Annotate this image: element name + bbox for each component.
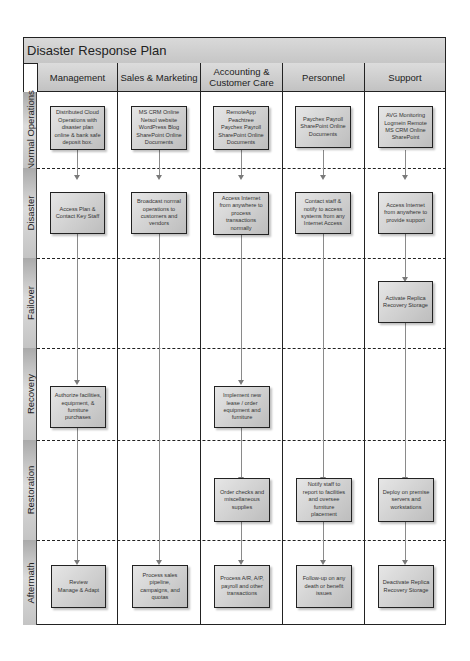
row-label-text: Aftermath (24, 562, 35, 603)
arrow-down-icon (238, 175, 244, 180)
step-box-disaster-sales: Broadcast normal operations to customers… (131, 192, 187, 234)
row-label-text: Disaster (24, 196, 35, 231)
row-label-aftermath: Aftermath (23, 540, 37, 625)
connector-line (241, 235, 242, 382)
row-label-failover: Failover (23, 258, 37, 348)
diagram-title: Disaster Response Plan (27, 43, 166, 58)
arrow-down-icon (156, 175, 162, 180)
column-divider (200, 92, 201, 625)
arrow-down-icon (402, 175, 408, 180)
step-box-aftermath-personnel: Follow-up on any death or benefit issues (296, 565, 352, 608)
connector-line (77, 150, 78, 178)
step-box-normal-support: AVG Monitoring Logmein Remote MS CRM Onl… (378, 106, 433, 148)
column-header-sales-marketing: Sales & Marketing (117, 63, 201, 92)
column-header-personnel: Personnel (282, 63, 365, 92)
step-box-normal-sales: MS CRM Online Netsol website WordPress B… (131, 106, 187, 150)
step-box-recovery-management: Authorize facilities, equipment, & furni… (50, 386, 106, 428)
column-header-accounting: Accounting & Customer Care (200, 63, 283, 92)
connector-line (159, 150, 160, 178)
step-box-disaster-support: Access Internet from anywhere to provide… (378, 192, 433, 234)
row-label-text: Normal Operations (24, 90, 35, 170)
connector-line (323, 522, 324, 560)
step-box-restoration-support: Deploy on premise servers and workstatio… (378, 478, 434, 522)
connector-line (405, 522, 406, 560)
column-divider (282, 92, 283, 625)
connector-line (159, 234, 160, 561)
step-box-normal-accounting: RemoteApp Peachtree Paychex Payroll Shar… (213, 106, 269, 150)
connector-line (405, 323, 406, 479)
connector-line (323, 234, 324, 479)
step-box-disaster-personnel: Contact staff & notify to access systems… (295, 192, 351, 234)
title-bar: Disaster Response Plan (23, 37, 446, 64)
row-label-recovery: Recovery (23, 348, 37, 440)
arrow-down-icon (74, 380, 80, 385)
step-box-aftermath-support: Deactivate Replica Recovery Storage (378, 565, 434, 608)
row-label-normal-operations: Normal Operations (23, 92, 37, 168)
column-header-support: Support (364, 63, 446, 92)
connector-line (323, 150, 324, 178)
step-box-aftermath-accounting: Process A/R, A/P, payroll and other tran… (214, 565, 270, 608)
step-box-disaster-accounting: Access Internet from anywhere to process… (213, 192, 269, 235)
column-header-management: Management (37, 63, 118, 92)
step-box-aftermath-management: Review Manage & Adapt (51, 565, 106, 608)
arrow-down-icon (238, 380, 244, 385)
row-label-text: Restoration (24, 466, 35, 515)
connector-line (241, 522, 242, 560)
step-box-normal-management: Distributed Cloud Operations with disast… (50, 106, 105, 150)
row-label-text: Recovery (24, 374, 35, 414)
arrow-down-icon (320, 175, 326, 180)
step-box-restoration-accounting: Order checks and miscellaneous supplies (214, 478, 270, 522)
connector-line (405, 150, 406, 178)
arrow-down-icon (74, 175, 80, 180)
step-box-disaster-management: Access Plan & Contact Key Staff (50, 192, 105, 234)
column-divider (364, 92, 365, 625)
row-label-restoration: Restoration (23, 440, 37, 540)
connector-line (241, 150, 242, 178)
connector-line (241, 428, 242, 479)
step-box-failover-support: Activate Replica Recovery Storage (378, 281, 433, 323)
step-box-recovery-accounting: Implement new lease / order equipment an… (214, 386, 270, 428)
row-label-text: Failover (24, 286, 35, 320)
step-box-restoration-personnel: Notify staff to report to facilities and… (296, 478, 352, 522)
row-label-disaster: Disaster (23, 168, 37, 258)
step-box-normal-personnel: Paychex Payroll SharePoint Online Docume… (295, 106, 351, 148)
connector-line (405, 234, 406, 280)
step-box-aftermath-sales: Process sales pipeline, campaigns, and q… (132, 565, 188, 608)
connector-line (77, 428, 78, 560)
connector-line (77, 234, 78, 382)
column-divider (117, 92, 118, 625)
